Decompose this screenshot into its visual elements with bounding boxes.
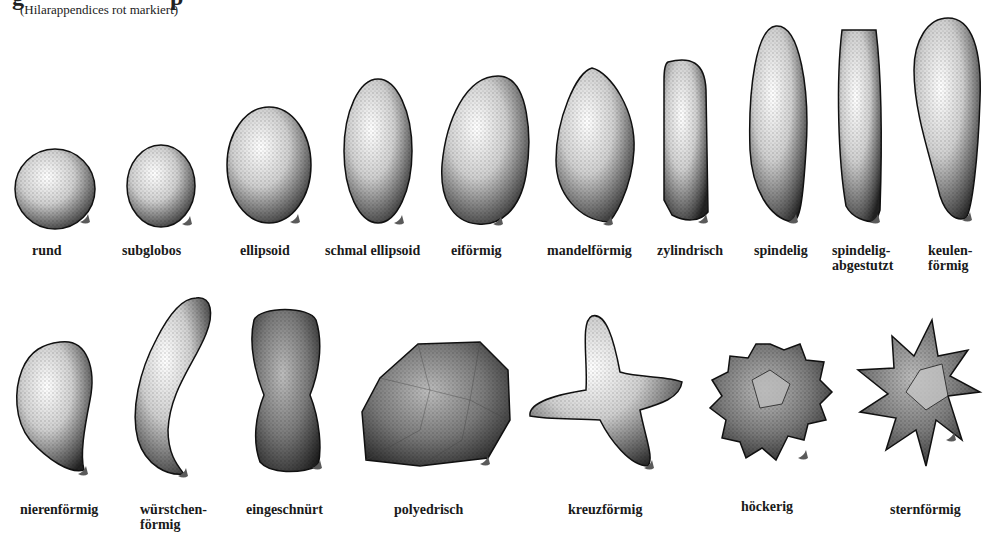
label-rund: rund: [32, 243, 62, 258]
spore-kreuzfoermig: [530, 316, 682, 470]
label-sternfoermig: sternförmig: [890, 502, 961, 517]
spore-eifoermig: [442, 76, 529, 226]
spore-hoeckerig: [710, 344, 832, 460]
label-ellipsoid: ellipsoid: [240, 243, 290, 258]
label-mandelfoermig: mandelförmig: [547, 243, 632, 258]
label-spindelig-abgestutzt: spindelig- abgestutzt: [832, 243, 893, 273]
label-subglobos: subglobos: [122, 243, 181, 258]
spore-schmal-ellipsoid: [344, 79, 412, 225]
spore-eingeschnuert: [252, 310, 322, 472]
subtitle: (Hilarappendices rot markiert): [20, 2, 178, 18]
spore-spindelig: [750, 26, 807, 224]
spore-spindelig-abgestutzt: [839, 30, 882, 224]
spore-zylindrisch: [664, 60, 708, 224]
label-zylindrisch: zylindrisch: [657, 243, 723, 258]
spore-mandelfoermig: [556, 68, 634, 226]
spore-wuerstchenfoermig: [135, 298, 210, 478]
label-wuerstchenfoermig: würstchen- förmig: [140, 502, 207, 532]
spore-rund: [15, 149, 95, 229]
spore-keulenfoermig: [914, 18, 980, 222]
spore-ellipsoid: [227, 107, 311, 224]
spore-sternfoermig: [858, 320, 980, 466]
label-spindelig: spindelig: [754, 243, 808, 258]
label-eifoermig: eiförmig: [451, 243, 502, 258]
label-hoeckerig: höckerig: [741, 499, 793, 514]
label-keulenfoermig: keulen- förmig: [928, 243, 972, 273]
label-nierenfoermig: nierenförmig: [20, 502, 98, 517]
spore-nierenfoermig: [17, 342, 92, 476]
label-kreuzfoermig: kreuzförmig: [568, 502, 642, 517]
label-polyedrisch: polyedrisch: [394, 502, 463, 517]
label-eingeschnuert: eingeschnürt: [246, 502, 323, 517]
label-schmal-ellipsoid: schmal ellipsoid: [325, 243, 420, 258]
spore-subglobos: [127, 145, 195, 227]
spore-polyedrisch: [362, 342, 510, 466]
